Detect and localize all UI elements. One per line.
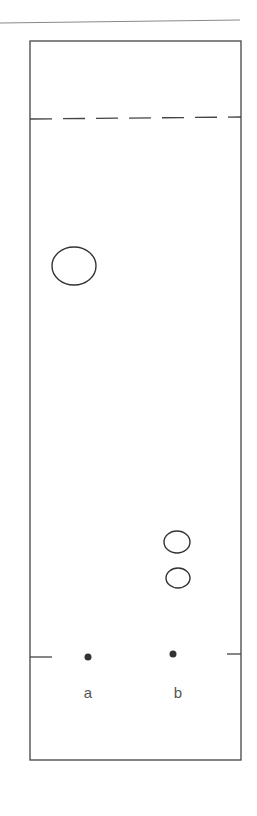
developed-spot-b-2 [166,568,190,588]
developed-spot-b-1 [164,531,190,553]
top-separator-line [0,20,240,23]
lane-label-b: b [174,684,182,701]
developed-spot-a-1 [52,247,96,285]
tlc-plate-diagram [0,0,257,816]
plate-outline [30,41,241,760]
solvent-front-line [30,117,241,119]
lane-label-a: a [84,684,92,701]
origin-spot-a [85,654,92,661]
origin-spot-b [170,651,177,658]
